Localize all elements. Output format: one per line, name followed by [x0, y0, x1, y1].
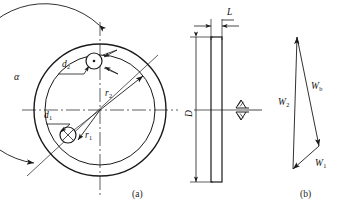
- W2-label: W2: [278, 98, 289, 108]
- panel-side-view: [190, 19, 262, 182]
- wheel-thickness-rect: [211, 37, 222, 182]
- d2-leader-arrow: [84, 66, 89, 74]
- W1-label: W1: [315, 159, 326, 169]
- balance-weight-2-center-dot: [93, 60, 96, 63]
- r1-label: r1: [85, 131, 92, 141]
- d2-label: d2: [62, 60, 70, 70]
- D-label: D: [185, 110, 195, 117]
- panel-b-vector-triangle: [293, 37, 319, 169]
- panel-a-front-view: [0, 4, 178, 196]
- r2-label: r2: [105, 89, 112, 99]
- d1-label: d1: [44, 111, 52, 121]
- Wb-label: Wb: [311, 82, 322, 92]
- panel-a-caption: (a): [132, 190, 143, 200]
- W2-vector: [293, 37, 297, 169]
- weight-2-arrow-lower: [105, 67, 118, 74]
- surface-finish-symbol-upper: [236, 100, 249, 108]
- figure-drawing-canvas: [0, 0, 346, 219]
- L-label: L: [227, 8, 232, 18]
- panel-b-caption: (b): [300, 190, 311, 200]
- engineering-figure: α d2 d1 r2 r1 (a) L D W2 Wb W1 (b): [0, 0, 346, 219]
- surface-finish-symbol-lower: [236, 112, 249, 120]
- alpha-label: α: [14, 72, 19, 82]
